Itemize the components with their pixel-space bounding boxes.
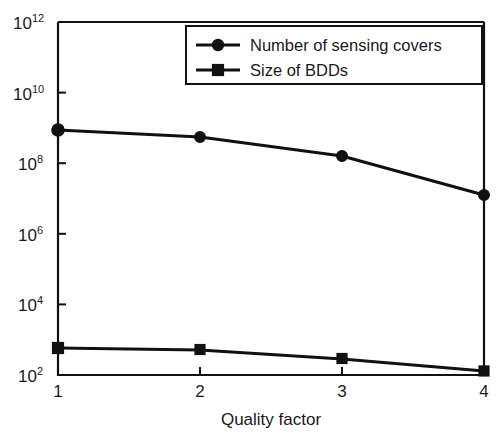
data-point-marker — [52, 124, 64, 136]
y-tick-mantissa: 10 — [13, 85, 32, 104]
y-tick-exponent: 2 — [37, 365, 43, 377]
chart-legend[interactable]: Number of sensing covers Size of BDDs — [186, 26, 482, 84]
data-point-marker — [479, 190, 490, 201]
legend-label: Number of sensing covers — [250, 36, 442, 54]
chart-svg: 102 104 106 108 1010 1012 1 2 3 4 — [0, 0, 504, 442]
y-tick-mantissa: 10 — [18, 296, 37, 315]
data-point-marker — [53, 343, 64, 354]
y-tick-exponent: 12 — [32, 12, 44, 24]
x-tick-label: 3 — [337, 382, 346, 401]
x-tick-label: 1 — [53, 382, 62, 401]
data-point-marker — [337, 354, 347, 364]
chart-figure: 102 104 106 108 1010 1012 1 2 3 4 — [0, 0, 504, 442]
y-tick-mantissa: 10 — [18, 226, 37, 245]
y-tick-mantissa: 10 — [13, 14, 32, 33]
x-tick-label: 2 — [195, 382, 204, 401]
data-point-marker — [479, 366, 489, 376]
y-tick-mantissa: 10 — [18, 155, 37, 174]
data-point-marker — [337, 151, 348, 162]
square-marker-icon — [213, 65, 224, 76]
circle-marker-icon — [212, 39, 223, 50]
legend-label: Size of BDDs — [250, 61, 348, 79]
x-tick-label: 4 — [479, 382, 488, 401]
y-tick-mantissa: 10 — [18, 367, 37, 386]
x-axis-title: Quality factor — [221, 410, 321, 429]
y-tick-exponent: 6 — [37, 224, 43, 236]
y-tick-exponent: 4 — [37, 294, 43, 306]
data-point-marker — [195, 345, 205, 355]
data-point-marker — [195, 132, 206, 143]
y-tick-exponent: 10 — [32, 83, 44, 95]
y-tick-exponent: 8 — [37, 153, 43, 165]
